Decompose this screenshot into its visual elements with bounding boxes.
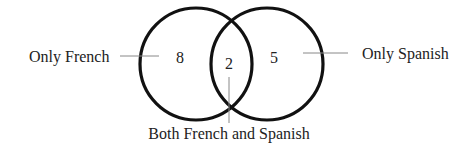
circle-french	[140, 8, 252, 120]
label-only-spanish: Only Spanish	[362, 45, 449, 63]
count-both: 2	[225, 55, 233, 72]
count-only-spanish: 5	[270, 49, 278, 66]
venn-diagram: 8 2 5 Only French Only Spanish Both Fren…	[0, 0, 474, 145]
label-only-french: Only French	[29, 48, 109, 66]
count-only-french: 8	[176, 49, 184, 66]
label-both: Both French and Spanish	[148, 125, 309, 143]
